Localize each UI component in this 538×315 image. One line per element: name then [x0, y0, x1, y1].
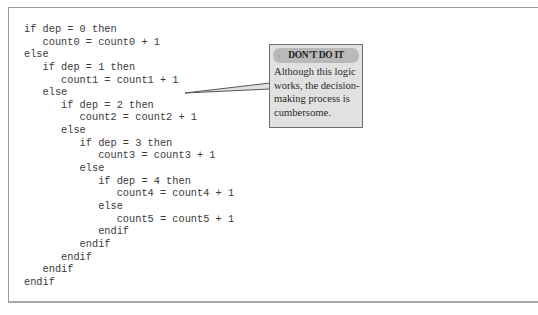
code-line: endif: [24, 225, 234, 238]
pseudocode-listing: if dep = 0 then count0 = count0 + 1else …: [24, 23, 234, 288]
code-line: count2 = count2 + 1: [24, 111, 234, 124]
code-line: else: [24, 124, 234, 137]
code-line: if dep = 0 then: [24, 23, 234, 36]
code-line: count3 = count3 + 1: [24, 149, 234, 162]
code-line: if dep = 1 then: [24, 61, 234, 74]
code-line: if dep = 3 then: [24, 137, 234, 150]
code-line: else: [24, 200, 234, 213]
code-line: if dep = 4 then: [24, 175, 234, 188]
dont-do-it-callout: » DON'T DO IT Although this logic works,…: [269, 44, 363, 128]
code-line: else: [24, 48, 234, 61]
callout-header: » DON'T DO IT: [273, 48, 359, 63]
double-chevron-right-icon: »: [277, 48, 279, 63]
code-line: count5 = count5 + 1: [24, 213, 234, 226]
code-line: else: [24, 162, 234, 175]
code-line: count1 = count1 + 1: [24, 74, 234, 87]
code-line: endif: [24, 276, 234, 289]
code-line: else: [24, 86, 234, 99]
code-line: count4 = count4 + 1: [24, 187, 234, 200]
code-line: count0 = count0 + 1: [24, 36, 234, 49]
code-line: endif: [24, 251, 234, 264]
callout-body: Although this logic works, the decision-…: [274, 65, 362, 119]
code-line: endif: [24, 238, 234, 251]
code-line: if dep = 2 then: [24, 99, 234, 112]
callout-title: DON'T DO IT: [288, 50, 344, 60]
code-line: endif: [24, 263, 234, 276]
